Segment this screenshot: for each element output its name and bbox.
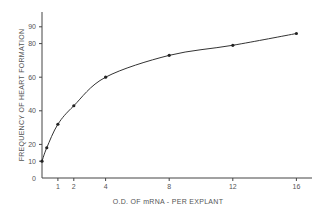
data-point [45,146,48,149]
y-tick-label: 10 [28,158,36,165]
data-point [56,123,59,126]
y-tick-label: 60 [28,74,36,81]
x-tick-label: 12 [229,183,237,190]
fitted-curve [42,34,296,162]
data-points [40,32,298,163]
data-point [72,104,75,107]
data-point [40,160,43,163]
y-tick-label: 40 [28,107,36,114]
y-tick-label: 0 [32,175,36,182]
data-point [231,44,234,47]
x-tick-label: 16 [293,183,301,190]
data-point [168,54,171,57]
y-tick-label: 80 [28,40,36,47]
x-tick-label: 2 [72,183,76,190]
x-tick-label: 4 [104,183,108,190]
x-axis: 12481216 [42,178,312,190]
chart: 0102040608090 12481216 O.D. OF mRNA - PE… [0,0,326,214]
data-point [104,76,107,79]
y-axis-title: FREQUENCY OF HEART FORMATION [18,29,26,162]
x-tick-label: 8 [167,183,171,190]
y-tick-label: 20 [28,141,36,148]
y-axis: 0102040608090 [28,12,42,182]
y-tick-label: 90 [28,23,36,30]
data-point [295,32,298,35]
x-axis-title: O.D. OF mRNA - PER EXPLANT [113,198,224,205]
x-tick-label: 1 [56,183,60,190]
